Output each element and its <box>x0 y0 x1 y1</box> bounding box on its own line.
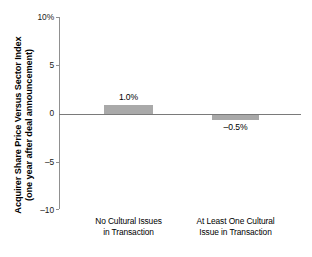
y-tick-label-neg10: –10 <box>18 205 54 215</box>
bar-chart: Acquirer Share Price Versus Sector Index… <box>0 0 312 257</box>
category-1-line-1: At Least One Cultural <box>183 216 288 227</box>
y-axis-title: Acquirer Share Price Versus Sector Index… <box>11 25 37 225</box>
category-0-line-2: in Transaction <box>78 227 179 238</box>
y-tick-label-10: 10% <box>18 12 54 22</box>
y-tick-label-neg5: –5 <box>18 157 54 167</box>
zero-baseline <box>59 114 301 115</box>
bar-no-cultural-issues <box>104 105 153 115</box>
y-tick-label-0: 0 <box>18 108 54 118</box>
category-1-line-2: Issue in Transaction <box>183 227 288 238</box>
y-axis-line <box>59 17 60 209</box>
y-tick-mark-10 <box>56 17 59 18</box>
y-tick-label-5: 5 <box>18 60 54 70</box>
y-tick-mark-5 <box>56 65 59 66</box>
category-label-at-least-one-cultural-issue: At Least One Cultural Issue in Transacti… <box>183 216 288 238</box>
y-axis-title-line-2: (one year after deal announcement) <box>24 49 36 201</box>
bar-value-at-least-one-cultural-issue: –0.5% <box>201 122 270 132</box>
bar-at-least-one-cultural-issue <box>212 115 259 120</box>
category-0-line-1: No Cultural Issues <box>78 216 179 227</box>
y-tick-mark-neg10 <box>56 209 59 210</box>
cropped-footnote <box>2 249 192 256</box>
category-label-no-cultural-issues: No Cultural Issues in Transaction <box>78 216 179 238</box>
y-tick-mark-neg5 <box>56 162 59 163</box>
bar-value-no-cultural-issues: 1.0% <box>94 92 163 102</box>
